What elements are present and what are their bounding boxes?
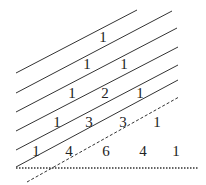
pascal-number: 1	[68, 86, 76, 101]
solid-diagonal-line	[16, 10, 137, 73]
pascal-number: 1	[53, 115, 61, 130]
pascal-number: 1	[172, 144, 180, 159]
pascal-number: 1	[99, 30, 107, 45]
solid-diagonal-line	[16, 28, 177, 112]
pascal-number: 6	[102, 144, 110, 159]
pascal-number: 4	[139, 144, 147, 159]
pascal-number: 1	[32, 144, 40, 159]
pascal-number: 4	[65, 144, 73, 159]
pascal-number: 2	[101, 86, 109, 101]
pascal-number: 1	[153, 115, 161, 130]
dashed-diagonal-line	[27, 97, 179, 182]
pascal-number: 1	[83, 57, 91, 72]
pascal-number: 3	[119, 115, 127, 130]
solid-diagonal-line	[16, 65, 178, 150]
pascal-number: 1	[120, 57, 128, 72]
pascal-number: 3	[85, 115, 93, 130]
pascal-number: 1	[136, 86, 144, 101]
pascal-diagram: 111121133114641	[0, 0, 206, 185]
